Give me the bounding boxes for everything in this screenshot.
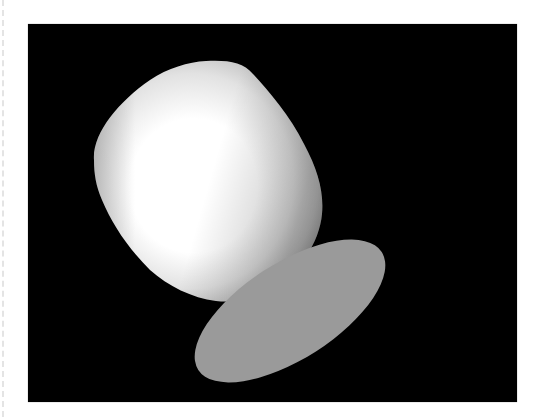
rendered-object (28, 24, 517, 402)
left-dashed-border (2, 0, 4, 417)
render-viewport (28, 24, 517, 402)
